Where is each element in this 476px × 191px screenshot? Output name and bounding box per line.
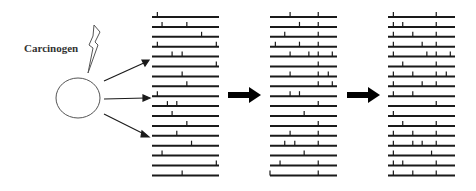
carcinogen-mutation-diagram: Carcinogen — [0, 0, 476, 191]
carcinogen-label: Carcinogen — [24, 42, 78, 54]
